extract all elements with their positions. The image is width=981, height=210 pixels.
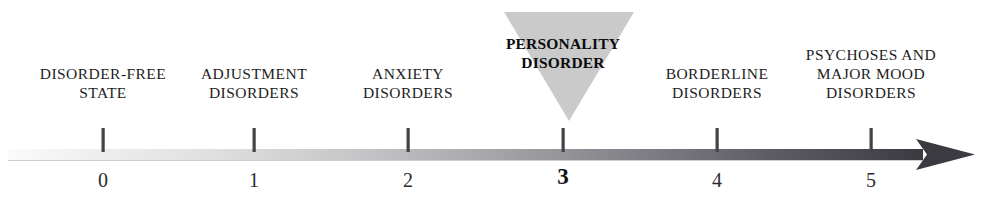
tick-mark-1 xyxy=(253,128,256,152)
scale-number-1: 1 xyxy=(224,168,284,192)
label-borderline-disorders: BORDERLINE DISORDERS xyxy=(627,64,807,102)
label-psychoses-and-major-mood-disorders: PSYCHOSES AND MAJOR MOOD DISORDERS xyxy=(781,45,961,102)
tick-mark-2 xyxy=(407,128,410,152)
tick-mark-3 xyxy=(562,128,565,152)
tick-mark-4 xyxy=(716,128,719,152)
axis-arrowhead xyxy=(916,139,975,170)
axis-bar xyxy=(8,149,923,160)
label-adjustment-disorders: ADJUSTMENT DISORDERS xyxy=(164,64,344,102)
severity-axis xyxy=(0,0,981,210)
scale-number-4: 4 xyxy=(687,168,747,192)
severity-continuum-figure: DISORDER-FREE STATE ADJUSTMENT DISORDERS… xyxy=(0,0,981,210)
axis-baseline xyxy=(8,160,923,161)
scale-number-0: 0 xyxy=(73,168,133,192)
scale-number-5: 5 xyxy=(841,168,901,192)
tick-mark-0 xyxy=(102,128,105,152)
scale-number-2: 2 xyxy=(378,168,438,192)
label-anxiety-disorders: ANXIETY DISORDERS xyxy=(318,64,498,102)
tick-mark-5 xyxy=(870,128,873,152)
label-personality-disorder: PERSONALITY DISORDER xyxy=(483,34,643,72)
scale-number-3: 3 xyxy=(533,165,593,189)
